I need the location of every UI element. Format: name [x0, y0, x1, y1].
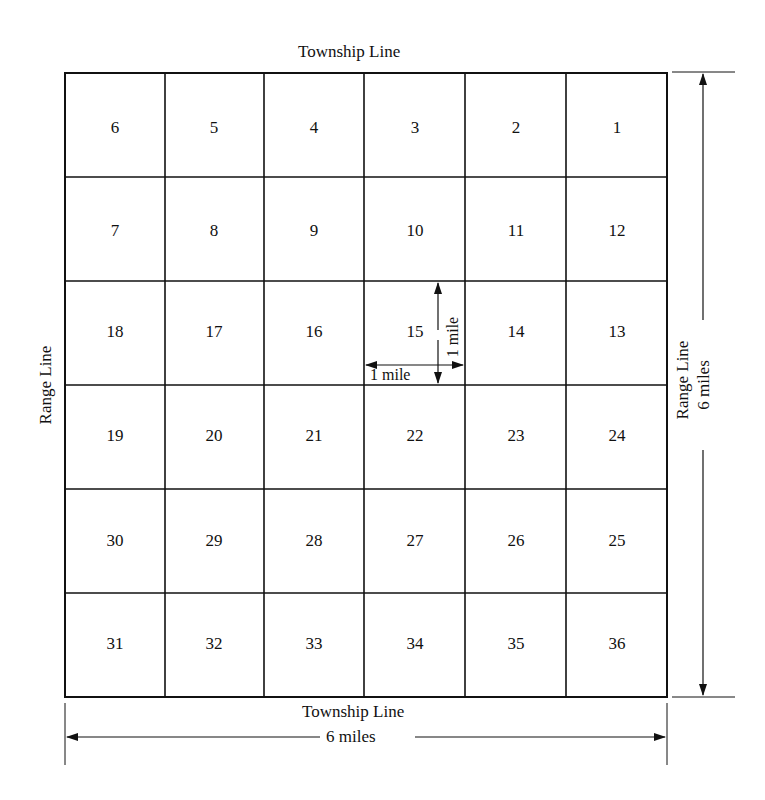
section-number: 17: [206, 322, 223, 342]
section-number: 31: [107, 634, 124, 654]
section-number: 21: [306, 426, 323, 446]
bottom-dimension-label: 6 miles: [326, 727, 376, 747]
section-number: 3: [411, 118, 420, 138]
section-height-label: 1 mile: [444, 317, 462, 357]
section-number: 16: [306, 322, 323, 342]
section-number: 32: [206, 634, 223, 654]
section-number: 9: [310, 221, 319, 241]
section-number: 14: [508, 322, 525, 342]
section-number: 34: [407, 634, 424, 654]
section-number: 35: [508, 634, 525, 654]
range-line-left: Range Line: [36, 346, 56, 425]
section-number: 11: [508, 221, 524, 241]
right-dimension-label: 6 miles: [694, 360, 714, 410]
section-number: 29: [206, 531, 223, 551]
section-number: 10: [407, 221, 424, 241]
township-diagram: Township Line Township Line 6 miles Rang…: [0, 0, 765, 800]
section-number: 19: [107, 426, 124, 446]
section-number: 23: [508, 426, 525, 446]
section-number: 18: [107, 322, 124, 342]
section-number: 30: [107, 531, 124, 551]
section-number: 2: [512, 118, 521, 138]
section-number: 27: [407, 531, 424, 551]
section-number: 7: [111, 221, 120, 241]
township-line-bottom: Township Line: [302, 702, 404, 722]
section-width-label: 1 mile: [370, 366, 410, 384]
section-number: 36: [609, 634, 626, 654]
section-number: 12: [609, 221, 626, 241]
section-number: 4: [310, 118, 319, 138]
section-number: 28: [306, 531, 323, 551]
section-number: 20: [206, 426, 223, 446]
section-number: 5: [210, 118, 219, 138]
section-number: 24: [609, 426, 626, 446]
section-number: 8: [210, 221, 219, 241]
township-line-top: Township Line: [298, 42, 400, 62]
section-number: 26: [508, 531, 525, 551]
section-number: 22: [407, 426, 424, 446]
range-line-right: Range Line: [673, 341, 693, 420]
section-number: 25: [609, 531, 626, 551]
section-number: 15: [407, 322, 424, 342]
section-number: 1: [613, 118, 622, 138]
section-number: 13: [609, 322, 626, 342]
section-number: 33: [306, 634, 323, 654]
section-number: 6: [111, 118, 120, 138]
